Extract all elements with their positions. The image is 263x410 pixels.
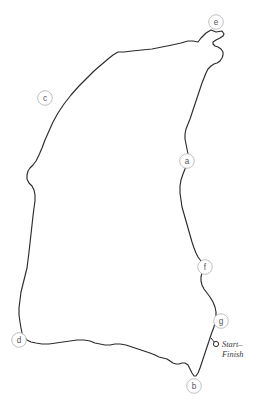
marker-c[interactable]: c [38,91,53,106]
marker-e[interactable]: e [209,15,224,30]
marker-g-label: g [219,317,224,326]
start-finish-dot [213,341,218,346]
marker-a-label: a [185,157,190,166]
marker-d-label: d [17,336,22,345]
start-finish-label-line2: Finish [221,350,243,359]
corner-markers-group: a b c d e f [12,15,229,394]
marker-b-label: b [192,382,197,391]
marker-a[interactable]: a [180,154,195,169]
track-outline-path [19,30,224,376]
marker-c-label: c [43,94,47,103]
marker-b[interactable]: b [187,379,202,394]
circuit-map-figure: a b c d e f [0,0,263,410]
marker-g[interactable]: g [214,314,229,329]
start-finish-annotation: Start– Finish [211,338,243,359]
marker-e-label: e [214,18,219,27]
marker-f[interactable]: f [198,260,213,275]
start-finish-label-line1: Start– [222,340,243,349]
circuit-svg-canvas: a b c d e f [0,0,263,410]
marker-d[interactable]: d [12,333,27,348]
